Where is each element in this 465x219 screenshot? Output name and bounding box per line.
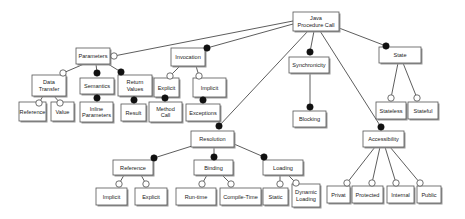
feature-node-explicit-ref[interactable]: Explicit: [135, 188, 169, 207]
optional-marker-icon: [116, 181, 122, 187]
node-label: Privat: [331, 192, 346, 198]
optional-marker-icon: [228, 181, 234, 187]
optional-marker-icon: [199, 181, 205, 187]
node-label: Reference: [120, 165, 146, 171]
node-label: Java: [310, 15, 323, 21]
feature-node-semantics[interactable]: Semantics: [80, 78, 116, 96]
node-label: Return: [127, 79, 144, 85]
optional-marker-icon: [393, 180, 399, 186]
optional-marker-icon: [196, 73, 202, 79]
mandatory-marker-icon: [307, 49, 313, 55]
optional-marker-icon: [369, 180, 375, 186]
node-label: Implicit: [103, 194, 121, 200]
feature-node-method-call[interactable]: MethodCall: [149, 102, 184, 124]
feature-node-invocation[interactable]: Invocation: [171, 48, 207, 68]
feature-node-run-time[interactable]: Run-time: [176, 188, 218, 207]
feature-node-stateless[interactable]: Stateless: [376, 102, 408, 121]
node-label: Call: [161, 112, 171, 118]
node-label: Inline: [90, 106, 103, 112]
feature-node-return-values[interactable]: ReturnValues: [118, 75, 154, 98]
feature-node-reference-res[interactable]: Reference: [113, 160, 155, 177]
node-label: State: [393, 52, 406, 58]
node-label: Reference: [20, 109, 46, 115]
node-label: Static: [269, 194, 283, 200]
mandatory-marker-icon: [383, 43, 389, 49]
node-label: Loading: [296, 196, 316, 202]
node-label: Stateful: [414, 108, 433, 114]
node-label: Public: [421, 192, 436, 198]
mandatory-marker-icon: [307, 104, 313, 110]
edge-resolution-to-loading: [234, 144, 261, 156]
feature-node-accessibility[interactable]: Accessibility: [363, 131, 406, 149]
mandatory-marker-icon: [118, 69, 124, 75]
node-label: Binding: [204, 165, 223, 171]
feature-node-protected[interactable]: Protected: [352, 186, 385, 205]
feature-node-reference-dt[interactable]: Reference: [19, 102, 48, 123]
node-label: Internal: [391, 192, 410, 198]
optional-marker-icon: [344, 180, 350, 186]
feature-node-parameters[interactable]: Parameters: [76, 48, 112, 66]
node-label: Explicit: [142, 194, 160, 200]
node-label: Protected: [356, 192, 380, 198]
node-label: Result: [126, 110, 142, 116]
edge-resolution-to-reference_res: [157, 146, 192, 157]
feature-node-blocking[interactable]: Blocking: [293, 111, 328, 129]
feature-node-exceptions[interactable]: Exceptions: [186, 104, 222, 123]
feature-node-privat[interactable]: Privat: [327, 186, 352, 205]
optional-marker-icon: [277, 181, 283, 187]
node-label: Values: [127, 86, 144, 92]
mandatory-marker-icon: [94, 95, 100, 101]
feature-node-state[interactable]: State: [379, 47, 423, 65]
edge-accessibility-to-internal: [385, 147, 395, 180]
node-label: Procedure Call: [298, 22, 335, 28]
feature-node-resolution[interactable]: Resolution: [191, 131, 236, 149]
feature-node-root[interactable]: JavaProcedure Call: [293, 12, 341, 33]
optional-marker-icon: [60, 70, 66, 76]
feature-node-synchronicity[interactable]: Synchronicity: [289, 57, 331, 75]
node-label: Accessibility: [368, 136, 399, 142]
feature-node-data-transfer[interactable]: DataTransfer: [32, 75, 68, 98]
node-label: Blocking: [299, 116, 320, 122]
edge-accessibility-to-privat: [349, 147, 375, 180]
optional-marker-icon: [167, 73, 173, 79]
feature-node-dynamic-loading[interactable]: DynamicLoading: [292, 184, 322, 209]
feature-node-inline-parameters[interactable]: InlineParameters: [80, 102, 115, 124]
node-label: Compile-Time: [223, 194, 258, 200]
edge-root-to-accessibility: [320, 31, 379, 124]
node-label: Method: [156, 106, 175, 112]
feature-node-implicit-ref[interactable]: Implicit: [96, 188, 129, 207]
optional-marker-icon: [57, 100, 63, 106]
mandatory-marker-icon: [378, 124, 384, 130]
feature-node-result[interactable]: Result: [121, 104, 148, 123]
optional-marker-icon: [111, 53, 117, 59]
node-label: Synchronicity: [292, 62, 325, 68]
node-label: Semantics: [84, 83, 110, 89]
feature-node-static[interactable]: Static: [263, 188, 290, 207]
mandatory-marker-icon: [94, 70, 100, 76]
optional-marker-icon: [417, 180, 423, 186]
node-label: Resolution: [199, 136, 225, 142]
optional-marker-icon: [36, 100, 42, 106]
optional-marker-icon: [388, 95, 394, 101]
feature-node-loading[interactable]: Loading: [263, 160, 305, 177]
feature-node-implicit-inv[interactable]: Implicit: [193, 78, 228, 99]
feature-node-public[interactable]: Public: [417, 186, 443, 205]
node-label: Parameters: [82, 112, 111, 118]
node-label: Explicit: [158, 85, 176, 91]
edge-accessibility-to-protected: [373, 147, 380, 180]
feature-node-stateful[interactable]: Stateful: [408, 102, 440, 121]
feature-node-compile-time[interactable]: Compile-Time: [220, 188, 263, 207]
node-label: Data: [43, 79, 56, 85]
node-label: Parameters: [79, 53, 108, 59]
edge-state-to-stateful: [403, 63, 416, 95]
mandatory-marker-icon: [200, 97, 206, 103]
feature-diagram: JavaProcedure CallParametersInvocationSy…: [0, 0, 465, 219]
mandatory-marker-icon: [131, 97, 137, 103]
feature-node-binding[interactable]: Binding: [194, 160, 235, 177]
feature-node-value[interactable]: Value: [51, 102, 76, 123]
node-label: Transfer: [39, 86, 60, 92]
edge-root-to-resolution: [221, 31, 308, 124]
node-label: Dynamic: [295, 189, 317, 195]
mandatory-marker-icon: [216, 123, 222, 129]
feature-node-internal[interactable]: Internal: [387, 186, 416, 205]
